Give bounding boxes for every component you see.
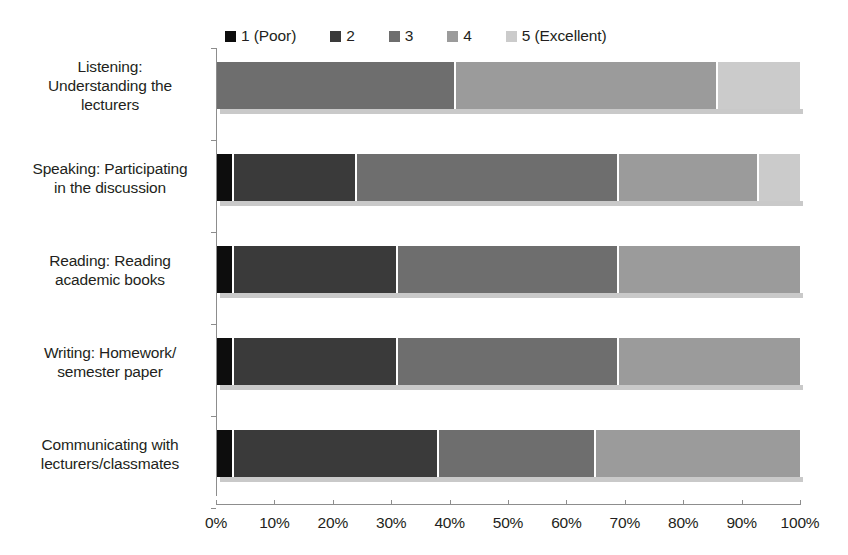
bar-segment: [619, 154, 759, 201]
bar-segment: [357, 154, 619, 201]
bar-shadow: [220, 201, 803, 206]
bar-segment: [217, 246, 234, 293]
category-label-line: Communicating with: [10, 435, 210, 454]
plot-area: [216, 48, 800, 496]
category-label-line: Reading: Reading: [10, 251, 210, 270]
category-label: Speaking: Participatingin the discussion: [10, 159, 210, 197]
category-label: Reading: Readingacademic books: [10, 251, 210, 289]
bar-segment: [234, 154, 356, 201]
legend-swatch-icon: [447, 31, 458, 42]
bar-shadow: [220, 293, 803, 298]
bar-row: [217, 246, 800, 293]
bar-shadow: [220, 109, 803, 114]
legend-swatch-icon: [330, 31, 341, 42]
bar-segment: [234, 430, 438, 477]
legend-swatch-icon: [389, 31, 400, 42]
x-axis-tick-mark: [683, 500, 684, 505]
x-axis-line: [216, 504, 800, 505]
bar-segment: [398, 338, 620, 385]
legend-label: 5 (Excellent): [522, 28, 607, 44]
category-label-line: lecturers/classmates: [10, 454, 210, 473]
legend-label: 3: [405, 28, 414, 44]
legend-swatch-icon: [225, 31, 236, 42]
category-label-line: semester paper: [10, 362, 210, 381]
legend-label: 2: [346, 28, 355, 44]
category-label-line: Understanding the: [10, 76, 210, 95]
category-tick-mark: [211, 140, 216, 141]
bar-segment: [217, 154, 234, 201]
category-label-line: in the discussion: [10, 178, 210, 197]
bar-row: [217, 338, 800, 385]
chart-legend: 1 (Poor)2345 (Excellent): [225, 24, 825, 48]
category-tick-mark: [211, 324, 216, 325]
x-axis-tick-label: 100%: [765, 514, 835, 532]
legend-entry: 4: [447, 28, 472, 44]
legend-label: 4: [463, 28, 472, 44]
bar-segment: [398, 246, 620, 293]
x-axis-tick-mark: [216, 500, 217, 505]
bar-segment: [234, 338, 397, 385]
category-label: Writing: Homework/semester paper: [10, 343, 210, 381]
bar-segment: [759, 154, 800, 201]
category-label: Listening:Understanding thelecturers: [10, 57, 210, 114]
category-label-line: Speaking: Participating: [10, 159, 210, 178]
bar-segment: [234, 246, 397, 293]
bar-segment: [439, 430, 596, 477]
bar-segment: [217, 62, 456, 109]
bar-row: [217, 430, 800, 477]
bar-segment: [619, 246, 800, 293]
x-axis-tick-mark: [566, 500, 567, 505]
category-tick-mark: [211, 48, 216, 49]
x-axis-tick-mark: [625, 500, 626, 505]
category-label-line: Writing: Homework/: [10, 343, 210, 362]
category-tick-mark: [211, 508, 216, 509]
x-axis-tick-mark: [800, 500, 801, 505]
x-axis-tick-mark: [508, 500, 509, 505]
bar-shadow: [220, 385, 803, 390]
legend-swatch-icon: [506, 31, 517, 42]
category-label: Communicating withlecturers/classmates: [10, 435, 210, 473]
legend-entry: 3: [389, 28, 414, 44]
x-axis-tick-mark: [274, 500, 275, 505]
x-axis-tick-mark: [742, 500, 743, 505]
legend-label: 1 (Poor): [241, 28, 296, 44]
stacked-bar-chart: 1 (Poor)2345 (Excellent) Listening:Under…: [0, 0, 848, 555]
category-label-line: academic books: [10, 270, 210, 289]
x-axis-tick-mark: [450, 500, 451, 505]
bar-segment: [596, 430, 800, 477]
category-label-line: lecturers: [10, 95, 210, 114]
category-label-line: Listening:: [10, 57, 210, 76]
bar-row: [217, 62, 800, 109]
legend-entry: 5 (Excellent): [506, 28, 607, 44]
category-tick-mark: [211, 416, 216, 417]
bar-segment: [217, 430, 234, 477]
category-tick-mark: [211, 232, 216, 233]
bar-segment: [217, 338, 234, 385]
x-axis-tick-mark: [391, 500, 392, 505]
bar-segment: [718, 62, 800, 109]
x-axis-tick-mark: [333, 500, 334, 505]
bar-segment: [619, 338, 800, 385]
bar-shadow: [220, 477, 803, 482]
legend-entry: 2: [330, 28, 355, 44]
bar-row: [217, 154, 800, 201]
bar-segment: [456, 62, 718, 109]
legend-entry: 1 (Poor): [225, 28, 296, 44]
